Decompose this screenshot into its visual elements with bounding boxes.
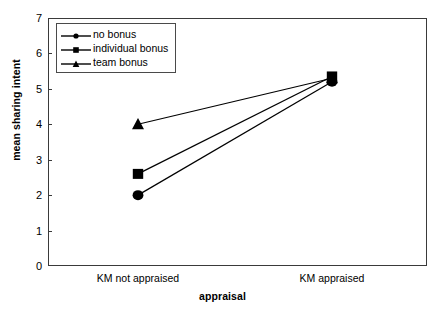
y-tick-mark-3	[48, 160, 52, 161]
y-tick-label-7: 7	[22, 13, 42, 23]
x-axis-title: appraisal	[0, 290, 445, 302]
x-tick-label-km-appraised: KM appraised	[300, 272, 365, 284]
legend-item-team-bonus: team bonus	[61, 55, 168, 69]
y-tick-label-4: 4	[22, 119, 42, 129]
circle-marker-icon	[61, 28, 91, 40]
legend-item-individual-bonus: individual bonus	[61, 41, 168, 55]
y-tick-mark-6	[48, 53, 52, 54]
y-axis-title: mean sharing intent	[10, 40, 22, 180]
y-axis-tick-marks	[48, 18, 53, 266]
triangle-marker-icon	[61, 56, 91, 68]
y-tick-label-0: 0	[22, 261, 42, 271]
y-tick-label-5: 5	[22, 84, 42, 94]
y-tick-mark-1	[48, 231, 52, 232]
chart-figure: mean sharing intent 7 6 5 4 3 2 1 0 KM n…	[0, 0, 445, 317]
y-tick-label-1: 1	[22, 226, 42, 236]
y-tick-mark-5	[48, 89, 52, 90]
y-tick-label-3: 3	[22, 155, 42, 165]
y-tick-mark-4	[48, 124, 52, 125]
y-tick-label-2: 2	[22, 190, 42, 200]
legend-label-no-bonus: no bonus	[91, 28, 136, 40]
chart-legend: no bonus individual bonus team bonus	[56, 23, 176, 73]
x-tick-label-km-not-appraised: KM not appraised	[97, 272, 179, 284]
y-axis-tick-labels: 7 6 5 4 3 2 1 0	[22, 18, 42, 266]
y-tick-mark-2	[48, 195, 52, 196]
y-tick-label-6: 6	[22, 48, 42, 58]
legend-label-individual-bonus: individual bonus	[91, 42, 168, 54]
legend-label-team-bonus: team bonus	[91, 56, 148, 68]
square-marker-icon	[61, 42, 91, 54]
legend-item-no-bonus: no bonus	[61, 27, 168, 41]
